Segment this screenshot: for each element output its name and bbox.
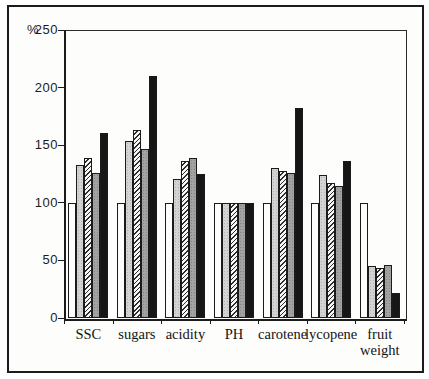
category-label: SSC: [64, 326, 113, 342]
bar-series-dark-gray: [189, 158, 197, 318]
x-axis-tick: [307, 320, 308, 324]
x-axis-tick: [210, 320, 211, 324]
bar-control-white: [263, 203, 271, 318]
bar-series-dark-gray: [238, 203, 246, 318]
x-axis-tick: [64, 320, 65, 324]
bar-series-dark-gray: [384, 265, 392, 318]
bar-series-dark-gray: [335, 186, 343, 318]
bar-series-light-gray: [271, 168, 279, 318]
bar-series-hatched: [181, 161, 189, 318]
bar-series-hatched: [327, 183, 335, 318]
bar-control-white: [117, 203, 125, 318]
bar-series-black: [197, 174, 205, 318]
y-axis-tick: [58, 318, 64, 319]
bar-series-light-gray: [368, 266, 376, 318]
category-label: carotene: [258, 326, 307, 342]
bar-series-light-gray: [319, 175, 327, 318]
bar-series-hatched: [84, 158, 92, 318]
bar-series-black: [246, 203, 254, 318]
bar-series-hatched: [279, 171, 287, 318]
x-axis-tick: [404, 320, 405, 324]
y-axis-tick: [58, 202, 64, 203]
category-label: sugars: [113, 326, 162, 342]
bar-series-hatched: [133, 130, 141, 318]
bar-series-light-gray: [76, 165, 84, 318]
y-axis-tick: [58, 260, 64, 261]
bar-series-dark-gray: [92, 173, 100, 318]
x-axis-tick: [113, 320, 114, 324]
x-axis-tick: [355, 320, 356, 324]
bar-control-white: [165, 203, 173, 318]
bar-series-black: [295, 108, 303, 318]
bar-series-light-gray: [125, 141, 133, 318]
y-axis-tick-label: 50: [22, 252, 58, 268]
bar-series-black: [149, 76, 157, 318]
bar-series-black: [343, 161, 351, 318]
bar-control-white: [214, 203, 222, 318]
bar-series-hatched: [230, 203, 238, 318]
y-axis-tick: [58, 87, 64, 88]
bar-series-black: [392, 293, 400, 318]
y-axis-tick-label: 200: [22, 80, 58, 96]
bar-control-white: [311, 203, 319, 318]
bar-series-light-gray: [222, 203, 230, 318]
bar-series-light-gray: [173, 179, 181, 318]
x-axis-tick: [258, 320, 259, 324]
y-axis-tick: [58, 145, 64, 146]
bar-series-black: [100, 133, 108, 318]
bar-control-white: [360, 203, 368, 318]
bar-series-dark-gray: [141, 149, 149, 318]
y-axis-tick: [58, 30, 64, 31]
category-label: acidity: [161, 326, 210, 342]
category-label: lycopene: [307, 326, 356, 342]
y-axis-tick-label: 250: [22, 22, 58, 38]
y-axis-tick-label: 100: [22, 195, 58, 211]
y-axis-tick-label: 0: [22, 310, 58, 326]
bar-series-hatched: [376, 268, 384, 318]
bar-control-white: [68, 203, 76, 318]
y-axis-tick-label: 150: [22, 137, 58, 153]
category-label: fruit weight: [355, 326, 404, 358]
category-label: PH: [210, 326, 259, 342]
bar-series-dark-gray: [287, 173, 295, 318]
x-axis-tick: [161, 320, 162, 324]
